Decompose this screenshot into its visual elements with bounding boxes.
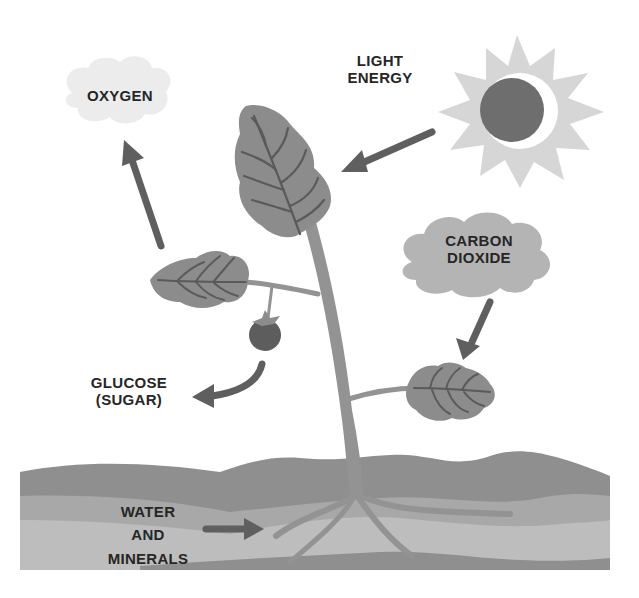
leaf-top	[235, 105, 331, 237]
light-energy-line1: LIGHT	[330, 52, 430, 69]
carbon-dioxide-line1: CARBON	[424, 232, 534, 249]
glucose-line2: (SUGAR)	[74, 391, 184, 408]
carbon-dioxide-label: CARBON DIOXIDE	[424, 232, 534, 267]
oxygen-label: OXYGEN	[68, 87, 172, 104]
oxygen-arrow	[122, 140, 161, 246]
leaf-left	[150, 251, 249, 308]
oxygen-text: OXYGEN	[87, 87, 153, 104]
photosynthesis-diagram: OXYGEN LIGHT ENERGY CARBON DIOXIDE GLUCO…	[0, 0, 639, 598]
glucose-line1: GLUCOSE	[74, 374, 184, 391]
leaf-right	[406, 362, 495, 420]
water-line1: WATER	[96, 500, 200, 523]
water-line3: MINERALS	[96, 547, 200, 570]
fruit-tomato	[249, 310, 281, 351]
glucose-arrow	[192, 364, 262, 408]
carbon-dioxide-line2: DIOXIDE	[424, 249, 534, 266]
light-energy-arrow	[341, 132, 432, 172]
light-energy-label: LIGHT ENERGY	[330, 52, 430, 87]
glucose-label: GLUCOSE (SUGAR)	[74, 374, 184, 409]
water-minerals-label: WATER AND MINERALS	[96, 500, 200, 570]
water-line2: AND	[96, 523, 200, 546]
sun-icon	[438, 35, 604, 188]
light-energy-line2: ENERGY	[330, 69, 430, 86]
carbon-dioxide-arrow	[456, 302, 490, 360]
